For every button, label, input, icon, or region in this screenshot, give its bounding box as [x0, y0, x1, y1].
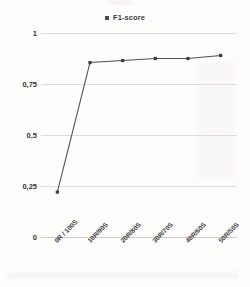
f1-score-markers	[56, 54, 223, 194]
series-f1-score	[41, 33, 237, 237]
f1-score-polyline	[57, 55, 220, 192]
chart-legend: F1-score	[0, 13, 250, 22]
y-axis-tick-labels: 00,250,50,751	[0, 33, 37, 237]
f1-score-line-chart: F1-score 00,250,50,751 0R / 100S10R/90S2…	[0, 0, 250, 287]
plot-area	[41, 33, 237, 237]
x-axis-tick-labels: 0R / 100S10R/90S20R/80S30R/70S40R/60S50R…	[41, 239, 237, 287]
data-point-marker	[121, 59, 124, 62]
x-axis-tick-label: 50R/50S	[217, 239, 222, 244]
legend-item-label: F1-score	[113, 13, 145, 22]
data-point-marker	[88, 61, 91, 64]
data-point-marker	[56, 191, 59, 194]
data-point-marker	[186, 57, 189, 60]
data-point-marker	[219, 54, 222, 57]
gridline-0	[41, 237, 237, 238]
square-marker-icon	[105, 16, 109, 20]
y-axis-tick-label: 0,75	[3, 80, 37, 89]
y-axis-tick-label: 0,5	[3, 131, 37, 140]
data-point-marker	[154, 57, 157, 60]
x-axis-tick-label: 20R/80S	[119, 239, 124, 244]
x-axis-tick-label: 30R/70S	[151, 239, 156, 244]
y-axis-tick-label: 0,25	[3, 182, 37, 191]
y-axis-tick-label: 1	[3, 29, 37, 38]
x-axis-tick-label: 40R/60S	[184, 239, 189, 244]
x-axis-tick-label: 10R/90S	[86, 239, 91, 244]
y-axis-tick-label: 0	[3, 233, 37, 242]
x-axis-tick-label: 0R / 100S	[53, 239, 58, 244]
